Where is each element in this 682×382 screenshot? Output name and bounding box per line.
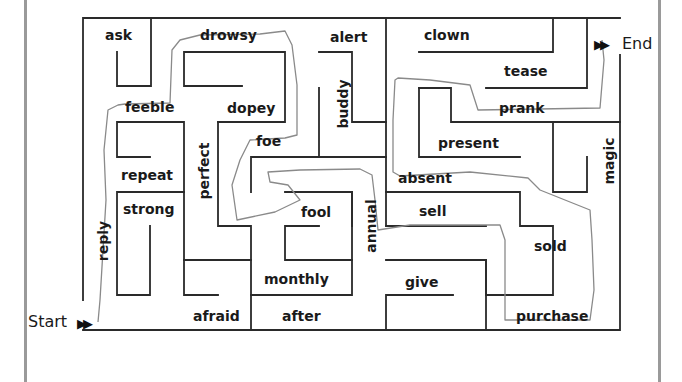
end-arrow-icon: ▶▶	[594, 38, 606, 51]
end-label: End	[622, 36, 652, 52]
word-monthly: monthly	[264, 272, 329, 286]
word-absent: absent	[398, 171, 452, 185]
maze-walls	[0, 0, 682, 382]
word-reply: reply	[96, 221, 110, 261]
word-afraid: afraid	[193, 309, 240, 323]
word-strong: strong	[123, 202, 175, 216]
word-prank: prank	[499, 101, 545, 115]
word-dopey: dopey	[227, 101, 275, 115]
word-annual: annual	[364, 199, 378, 253]
word-alert: alert	[330, 30, 367, 44]
word-feeble: feeble	[125, 100, 174, 114]
word-tease: tease	[504, 64, 547, 78]
word-foe: foe	[256, 134, 281, 148]
word-perfect: perfect	[197, 143, 211, 200]
word-give: give	[405, 275, 438, 289]
word-buddy: buddy	[336, 79, 350, 128]
word-drowsy: drowsy	[200, 28, 257, 42]
word-clown: clown	[424, 28, 470, 42]
word-present: present	[438, 136, 499, 150]
word-sell: sell	[419, 204, 446, 218]
word-magic: magic	[602, 137, 616, 184]
start-arrow-icon: ▶▶	[77, 317, 89, 330]
word-ask: ask	[105, 28, 132, 42]
start-label: Start	[28, 314, 67, 330]
word-sold: sold	[534, 239, 567, 253]
word-fool: fool	[301, 205, 331, 219]
word-repeat: repeat	[121, 168, 173, 182]
word-after: after	[282, 309, 321, 323]
word-purchase: purchase	[516, 309, 588, 323]
